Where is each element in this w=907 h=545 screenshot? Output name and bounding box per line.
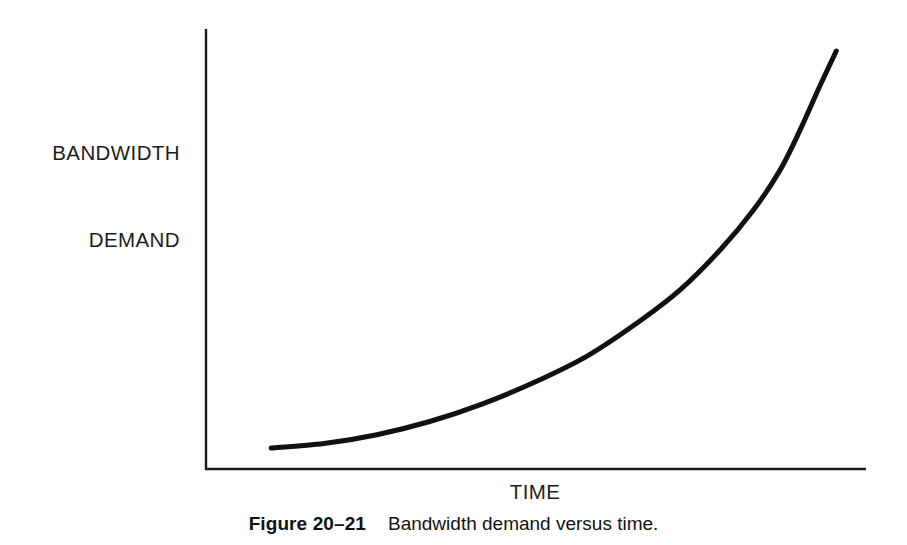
figure-container: BANDWIDTH DEMAND TIME Figure 20–21Bandwi… <box>0 0 907 545</box>
bandwidth-demand-curve <box>271 51 836 448</box>
plot-area <box>0 0 907 545</box>
figure-number: Figure 20–21 <box>249 513 366 534</box>
figure-caption-text: Bandwidth demand versus time. <box>388 513 658 534</box>
figure-caption: Figure 20–21Bandwidth demand versus time… <box>0 511 907 537</box>
x-axis-label: TIME <box>455 480 615 504</box>
